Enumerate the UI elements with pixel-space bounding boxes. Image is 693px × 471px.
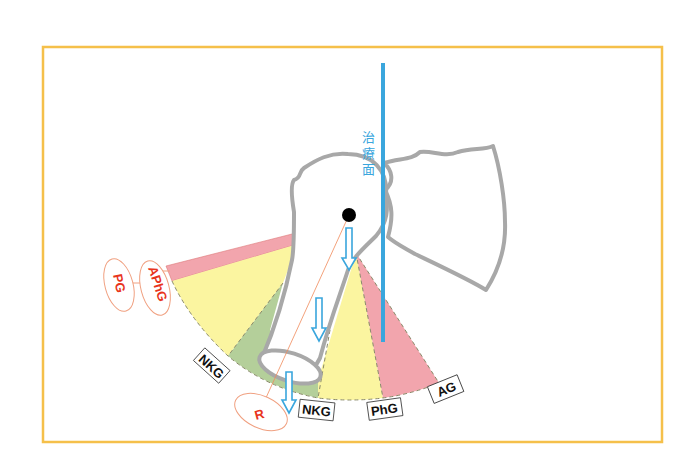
nkg-left-tag: NKG bbox=[193, 348, 230, 383]
rotation-center-dot bbox=[342, 208, 356, 222]
treatment-plane-label-3: 面 bbox=[362, 162, 375, 177]
phg-tag: PhG bbox=[367, 398, 403, 421]
scapula bbox=[384, 146, 505, 290]
treatment-plane-label-1: 治 bbox=[362, 130, 375, 145]
nkg-bottom-label: NKG bbox=[301, 402, 331, 420]
nkg-bottom-tag: NKG bbox=[298, 399, 335, 421]
treatment-plane-label-2: 療 bbox=[362, 146, 375, 161]
shoulder-diagram: 治 療 面 PG APhG NKG NKG PhG AG R bbox=[0, 0, 693, 471]
